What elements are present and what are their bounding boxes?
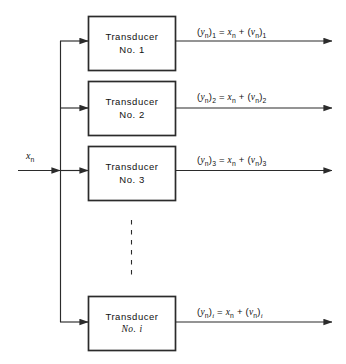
transducer-box-i (89, 297, 176, 351)
transducer-box-1 (89, 17, 176, 71)
diagram-canvas (0, 0, 346, 364)
transducer-box-3 (89, 147, 176, 201)
transducer-array-diagram: xn Transducer No. 1 Transducer No. 2 Tra… (0, 0, 346, 364)
transducer-box-2 (89, 82, 176, 136)
